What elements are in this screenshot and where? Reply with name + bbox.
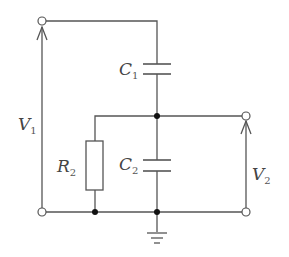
capacitor-c1	[143, 64, 171, 74]
resistor-r	[86, 141, 103, 190]
v1-arrow-icon	[37, 27, 47, 208]
label-v1: V1	[18, 114, 37, 136]
ground-icon	[147, 233, 167, 243]
label-c2: C2	[119, 154, 138, 176]
junction-node	[92, 209, 98, 215]
label-r: R2	[56, 156, 76, 178]
junction-node	[154, 209, 160, 215]
circuit-diagram: C1 C2 R2 V1 V2	[0, 0, 289, 257]
label-v2: V2	[252, 164, 271, 186]
label-c1: C1	[119, 59, 138, 81]
top-wire	[46, 21, 157, 64]
v2-arrow-icon	[241, 121, 251, 208]
terminal-v1-bottom	[38, 208, 46, 216]
middle-wire	[95, 116, 242, 141]
terminal-v1-top	[38, 17, 46, 25]
terminal-v2-top	[242, 112, 250, 120]
capacitor-c2	[143, 160, 171, 171]
terminal-v2-bottom	[242, 208, 250, 216]
junction-node	[154, 113, 160, 119]
